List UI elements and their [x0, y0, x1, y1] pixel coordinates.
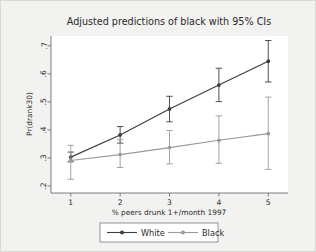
data-point-marker [266, 59, 270, 63]
data-point-marker [266, 132, 270, 136]
x-tick-label: 2 [118, 198, 123, 207]
chart-figure: Adjusted predictions of black with 95% C… [0, 0, 316, 252]
data-point-marker [217, 138, 221, 142]
y-axis-ticks: .2.3.4.5.6.7 [40, 42, 52, 190]
legend-label-white: White [141, 228, 165, 238]
x-axis-title: % peers drunk 1+/month 1997 [112, 208, 227, 217]
x-tick-label: 3 [167, 198, 172, 207]
x-axis-ticks: 12345 [68, 193, 271, 207]
legend-label-black: Black [202, 228, 224, 238]
chart-title: Adjusted predictions of black with 95% C… [67, 16, 271, 27]
data-point-marker [168, 107, 172, 111]
y-tick-label: .4 [40, 126, 49, 133]
data-point-marker [118, 133, 122, 137]
y-tick-label: .7 [40, 42, 49, 49]
x-tick-label: 4 [216, 198, 221, 207]
x-tick-label: 1 [68, 198, 73, 207]
y-tick-label: .3 [40, 154, 49, 161]
data-point-marker [69, 159, 73, 163]
chart-legend: White Black [100, 223, 224, 242]
data-point-marker [168, 146, 172, 150]
y-tick-label: .5 [40, 98, 49, 105]
data-point-marker [118, 153, 122, 157]
adjusted-predictions-line-chart: Adjusted predictions of black with 95% C… [1, 1, 316, 252]
data-point-marker [217, 83, 221, 87]
legend-marker-white [120, 231, 124, 235]
legend-marker-black [181, 231, 185, 235]
y-tick-label: .2 [40, 182, 49, 189]
x-tick-label: 5 [266, 198, 271, 207]
y-axis-title: Pr(drank30) [25, 92, 34, 136]
y-tick-label: .6 [40, 70, 49, 77]
